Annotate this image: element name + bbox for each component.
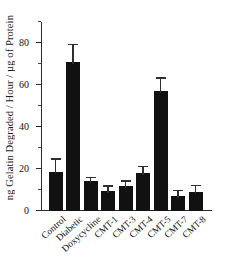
- y-tick-major: 60: [36, 84, 41, 85]
- y-tick-label: 20: [19, 162, 29, 173]
- y-axis-spine: [41, 22, 42, 211]
- y-tick-minor: [38, 189, 41, 190]
- error-bar-cap: [121, 180, 131, 181]
- bar-group: [66, 22, 80, 211]
- bar: [66, 62, 80, 211]
- error-bar-cap: [103, 185, 113, 186]
- error-bar: [107, 187, 108, 194]
- error-bar: [142, 167, 143, 175]
- y-tick-minor: [38, 105, 41, 106]
- y-tick-major: 40: [36, 126, 41, 127]
- error-bar-cap: [138, 166, 148, 167]
- error-bar-cap: [173, 190, 183, 191]
- error-bar: [90, 178, 91, 183]
- y-tick-label: 40: [19, 120, 29, 131]
- error-bar-cap: [156, 77, 166, 78]
- y-tick-minor: [38, 63, 41, 64]
- y-tick-major: 80: [36, 42, 41, 43]
- chart-figure: ng Gelatin Degraded / Hour / µg of Prote…: [0, 0, 225, 267]
- bar: [154, 91, 168, 211]
- error-bar-cap: [191, 185, 201, 186]
- error-bar: [177, 191, 178, 198]
- y-tick-major: 0: [36, 210, 41, 211]
- y-tick-label: 0: [24, 204, 29, 215]
- error-bar: [72, 45, 73, 64]
- error-bar: [195, 186, 196, 194]
- bar-group: [84, 22, 98, 211]
- bar-group: [101, 22, 115, 211]
- y-tick-label: 80: [19, 36, 29, 47]
- bar-group: [49, 22, 63, 211]
- bar-group: [189, 22, 203, 211]
- error-bar: [160, 79, 161, 94]
- y-tick-major: 20: [36, 168, 41, 169]
- y-tick-minor: [38, 21, 41, 22]
- error-bar: [55, 160, 56, 175]
- plot-area: 020406080: [41, 22, 212, 211]
- y-tick-label: 60: [19, 78, 29, 89]
- bar: [49, 172, 63, 211]
- y-axis-label-container: ng Gelatin Degraded / Hour / µg of Prote…: [0, 0, 18, 215]
- bar-group: [171, 22, 185, 211]
- bar-group: [154, 22, 168, 211]
- y-axis-label: ng Gelatin Degraded / Hour / µg of Prote…: [4, 15, 15, 200]
- error-bar-cap: [86, 177, 96, 178]
- y-tick-minor: [38, 147, 41, 148]
- error-bar-cap: [51, 158, 61, 159]
- bar-group: [136, 22, 150, 211]
- error-bar-cap: [68, 44, 78, 45]
